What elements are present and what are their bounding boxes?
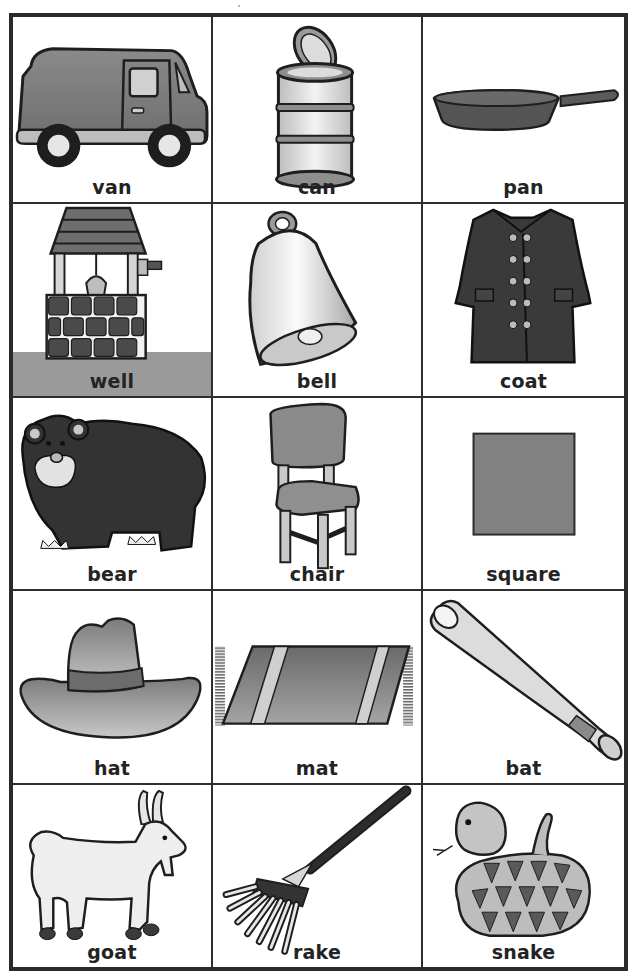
word-label: snake <box>423 941 624 963</box>
van-icon <box>13 17 211 202</box>
bear-icon <box>13 398 211 589</box>
word-label: bat <box>423 757 624 779</box>
speck <box>238 5 240 7</box>
card-pan: pan <box>423 17 624 204</box>
hat-icon <box>13 591 211 783</box>
card-can: can <box>213 17 423 204</box>
word-label: bell <box>213 370 421 392</box>
bat-icon <box>423 591 624 783</box>
word-label: hat <box>13 757 211 779</box>
word-label: goat <box>13 941 211 963</box>
coat-icon <box>423 204 624 396</box>
square-icon <box>423 398 624 589</box>
well-icon <box>13 204 211 396</box>
card-snake: snake <box>423 785 624 967</box>
bell-icon <box>213 204 421 396</box>
chair-icon <box>213 398 421 589</box>
card-hat: hat <box>13 591 213 785</box>
card-coat: coat <box>423 204 624 398</box>
card-bear: bear <box>13 398 213 591</box>
word-label: bear <box>13 563 211 585</box>
word-label: rake <box>213 941 421 963</box>
word-label: mat <box>213 757 421 779</box>
card-well: well <box>13 204 213 398</box>
pan-icon <box>423 17 624 202</box>
word-label: pan <box>423 176 624 198</box>
card-goat: goat <box>13 785 213 967</box>
worksheet: van can pan <box>9 13 628 971</box>
card-bell: bell <box>213 204 423 398</box>
card-bat: bat <box>423 591 624 785</box>
card-square: square <box>423 398 624 591</box>
mat-icon <box>213 591 421 783</box>
rake-icon <box>213 785 421 967</box>
word-label: chair <box>213 563 421 585</box>
goat-icon <box>13 785 211 967</box>
can-icon <box>213 17 421 202</box>
word-label: van <box>13 176 211 198</box>
word-label: coat <box>423 370 624 392</box>
snake-icon <box>423 785 624 967</box>
card-rake: rake <box>213 785 423 967</box>
card-van: van <box>13 17 213 204</box>
word-label: can <box>213 176 421 198</box>
card-mat: mat <box>213 591 423 785</box>
card-chair: chair <box>213 398 423 591</box>
word-label: well <box>13 370 211 392</box>
picture-grid: van can pan <box>13 17 624 967</box>
word-label: square <box>423 563 624 585</box>
